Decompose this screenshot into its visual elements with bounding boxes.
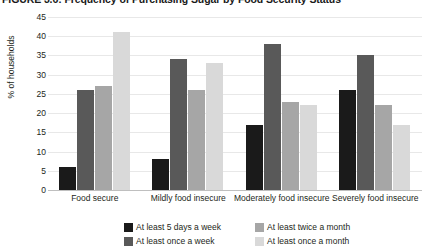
bar [339,90,356,190]
y-axis-tick-label: 30 [24,71,46,80]
x-axis-line [48,190,422,191]
legend-item: At least once a week [124,235,214,247]
bar-group [152,17,224,190]
y-axis-tick-label: 40 [24,32,46,41]
y-axis-tick-label: 5 [24,167,46,176]
legend-swatch [255,237,264,246]
legend-swatch [124,223,133,232]
legend-label: At least twice a month [267,223,350,232]
y-axis-tick-label: 45 [24,13,46,22]
y-axis-label: % of households [6,12,16,122]
bar [206,63,223,190]
bar-group [59,17,131,190]
bar [152,159,169,190]
x-axis-category-label: Mildly food insecure [134,193,242,204]
y-axis-tick-label: 10 [24,148,46,157]
bar [282,102,299,190]
y-axis-tick-label: 20 [24,109,46,118]
chart-plot-wrapper: % of households 454035302520151050 Food … [0,0,429,252]
legend-swatch [124,237,133,246]
bar [59,167,76,190]
y-axis-tick-labels: 454035302520151050 [24,10,46,200]
y-axis-tick-label: 25 [24,90,46,99]
bar [170,59,187,190]
legend-item: At least 5 days a week [124,221,221,233]
bar-group [339,17,411,190]
x-axis-category-labels: Food secureMildly food insecureModeratel… [48,193,422,217]
bar-group [246,17,318,190]
chart-legend: At least 5 days a weekAt least once a we… [124,221,424,249]
legend-label: At least 5 days a week [136,223,221,232]
bar [246,125,263,190]
bar [77,90,94,190]
plot-area [48,17,422,190]
legend-item: At least once a month [255,235,349,247]
legend-swatch [255,223,264,232]
legend-label: At least once a month [267,237,349,246]
x-axis-category-label: Moderately food insecure [228,193,336,204]
bar [113,32,130,190]
bar [300,105,317,190]
bar [375,105,392,190]
bar [393,125,410,190]
bar [357,55,374,190]
bar [188,90,205,190]
x-axis-category-label: Severely food insecure [321,193,429,204]
legend-label: At least once a week [136,237,214,246]
x-axis-category-label: Food secure [41,193,149,204]
bar [264,44,281,190]
y-axis-tick-label: 35 [24,51,46,60]
bar [95,86,112,190]
y-axis-tick-label: 15 [24,128,46,137]
legend-item: At least twice a month [255,221,350,233]
